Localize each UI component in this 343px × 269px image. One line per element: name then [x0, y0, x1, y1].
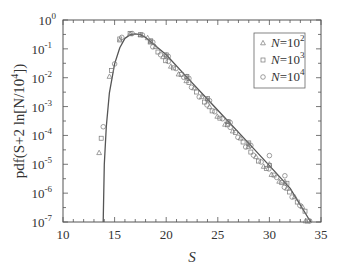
square-marker [156, 50, 160, 54]
y-tick-label: 10-6 [32, 184, 53, 201]
circle-marker [166, 59, 171, 64]
legend-label: N=102 [270, 33, 305, 50]
square-marker [195, 90, 199, 94]
circle-marker [101, 124, 106, 129]
y-tick-label: 10-1 [32, 40, 53, 57]
circle-marker [220, 116, 225, 121]
legend-label: N=104 [270, 67, 305, 84]
circle-marker [283, 173, 288, 178]
x-tick-label: 35 [315, 227, 328, 242]
square-marker [99, 136, 103, 140]
x-tick-label: 15 [108, 227, 121, 242]
circle-marker [228, 125, 233, 130]
x-tick-label: 20 [160, 227, 173, 242]
y-tick-label: 10-2 [32, 69, 53, 86]
y-axis-title-main: pdf(S+2 ln[N/10 [11, 79, 28, 179]
x-tick-label: 25 [211, 227, 224, 242]
circle-marker [259, 160, 264, 165]
y-axis-title: pdf(S+2 ln[N/104]) [9, 64, 28, 179]
triangle-marker [97, 150, 102, 154]
y-tick-label: 10-7 [32, 213, 53, 230]
triangle-marker [107, 74, 112, 78]
circle-marker [174, 66, 179, 71]
x-axis-title: S [188, 249, 196, 265]
circle-marker [251, 153, 256, 158]
y-tick-label: 100 [39, 11, 57, 28]
circle-marker [212, 109, 217, 114]
y-axis-title-tail: ]) [11, 64, 28, 74]
y-tick-label: 10-5 [32, 155, 53, 172]
y-tick-label: 10-3 [32, 98, 53, 115]
circle-marker [158, 52, 163, 57]
circle-marker [205, 103, 210, 108]
legend: N=102N=103N=104 [254, 33, 305, 88]
pdf-chart: 101520253035 10010-110-210-310-410-510-6… [0, 0, 343, 269]
circle-marker [267, 153, 272, 158]
x-tick-label: 30 [263, 227, 276, 242]
y-tick-label: 10-4 [32, 126, 53, 143]
legend-label: N=103 [270, 50, 305, 67]
square-marker [241, 140, 245, 144]
x-tick-label: 10 [57, 227, 70, 242]
